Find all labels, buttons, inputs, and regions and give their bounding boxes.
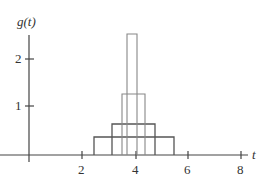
y-tick-label-2: 2 <box>15 51 22 66</box>
y-tick-label-1: 1 <box>15 98 22 113</box>
pulse-wide <box>94 137 174 155</box>
x-tick-label-2: 2 <box>78 162 85 177</box>
x-axis-label: t <box>252 147 256 162</box>
chart-canvas: g(t) t 1 2 2 4 6 8 <box>0 0 268 182</box>
x-tick-label-4: 4 <box>132 162 139 177</box>
x-tick-label-6: 6 <box>184 162 191 177</box>
y-axis-label: g(t) <box>17 14 36 29</box>
pulse-medium <box>112 124 155 155</box>
x-tick-label-8: 8 <box>237 162 244 177</box>
